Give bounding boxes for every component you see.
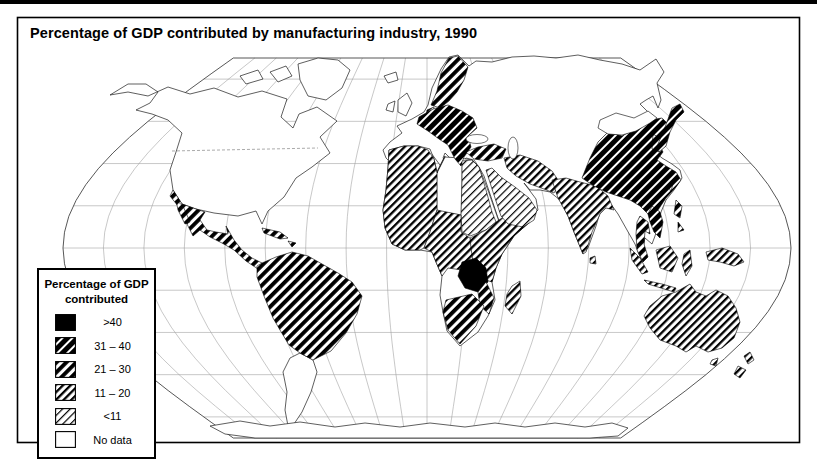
legend-swatch bbox=[55, 361, 76, 378]
legend: Percentage of GDP contributed >4031 – 40… bbox=[37, 268, 156, 459]
figure: Percentage of GDP contributed by manufac… bbox=[0, 0, 817, 459]
legend-row: <11 bbox=[44, 408, 149, 425]
legend-row: >40 bbox=[44, 314, 149, 331]
legend-row: 21 – 30 bbox=[44, 361, 149, 378]
map-title: Percentage of GDP contributed by manufac… bbox=[30, 25, 477, 41]
legend-swatch bbox=[55, 431, 76, 448]
black-sea bbox=[466, 135, 488, 144]
legend-row: 31 – 40 bbox=[44, 337, 149, 354]
legend-title-line2: contributed bbox=[44, 292, 149, 307]
legend-title-line1: Percentage of GDP bbox=[44, 277, 149, 292]
legend-item-label: 21 – 30 bbox=[76, 363, 149, 375]
legend-swatch bbox=[55, 314, 76, 331]
legend-item-label: >40 bbox=[76, 316, 149, 328]
legend-row: No data bbox=[44, 431, 149, 448]
legend-swatch bbox=[55, 408, 76, 425]
legend-rows: >4031 – 4021 – 3011 – 20<11No data bbox=[44, 314, 149, 449]
legend-title: Percentage of GDP contributed bbox=[44, 277, 149, 307]
legend-item-label: <11 bbox=[76, 410, 149, 422]
legend-row: 11 – 20 bbox=[44, 384, 149, 401]
legend-item-label: 11 – 20 bbox=[76, 387, 149, 399]
legend-swatch bbox=[55, 384, 76, 401]
legend-item-label: No data bbox=[76, 434, 149, 446]
legend-item-label: 31 – 40 bbox=[76, 340, 149, 352]
legend-swatch bbox=[55, 337, 76, 354]
caspian-sea bbox=[508, 137, 518, 159]
